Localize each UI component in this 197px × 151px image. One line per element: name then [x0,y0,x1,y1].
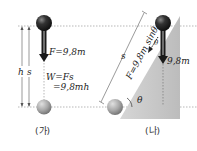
caption-b: (나) [145,126,160,136]
theta-label: θ [137,95,143,105]
weight-label: 9,8m [167,56,190,66]
s-arrow-top-icon [28,26,31,30]
h-arrow-bottom-icon [21,103,24,107]
s-label: s [27,67,32,77]
theta-top-label: θ [154,39,159,47]
ball-top [36,15,52,31]
ball-top-incline [155,15,171,31]
panel-b: s F=9,8m sinθ 9,8m θ θ (나) [99,11,190,136]
slope-s-label: s [121,51,126,61]
h-label: h [18,67,24,77]
work-label-2: =9,8mh [53,82,89,92]
s-arrow-bottom-icon [28,103,31,107]
ball-bottom [37,100,52,115]
physics-diagram: h s F=9,8m W=Fs =9,8mh (가) s F=9,8m sinθ… [0,0,197,151]
ball-bottom-incline [107,99,123,115]
h-arrow-top-icon [21,26,24,30]
work-label-1: W=Fs [46,72,74,82]
force-arrow-head-icon [39,54,49,62]
caption-a: (가) [35,126,50,136]
force-label: F=9,8m [48,47,86,57]
